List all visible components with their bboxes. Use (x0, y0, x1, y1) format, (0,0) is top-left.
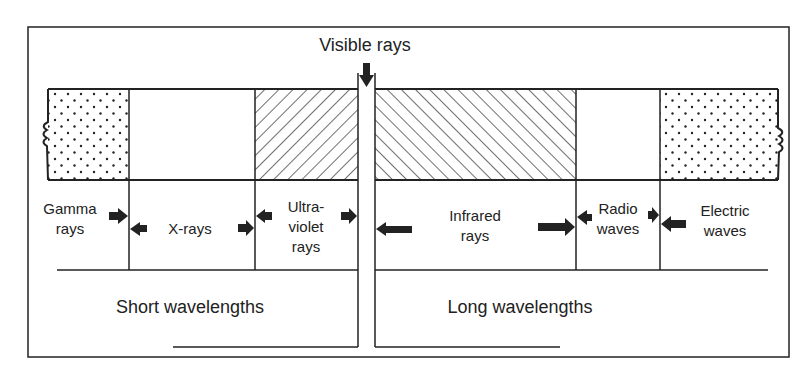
ultraviolet-band (255, 89, 358, 180)
long-wavelengths-label: Long wavelengths (430, 297, 610, 317)
electric-waves-label: Electric waves (680, 201, 770, 241)
arrow-right-icon (538, 218, 575, 236)
radio-waves-label: Radio waves (588, 199, 648, 239)
visible-rays-label: Visible rays (300, 35, 430, 55)
arrow-down-icon (359, 63, 374, 87)
electric-band (660, 89, 778, 180)
infrared-rays-label: Infrared rays (430, 206, 520, 246)
arrow-left-icon (130, 222, 147, 236)
infrared-band (375, 89, 576, 180)
short-wavelengths-label: Short wavelengths (90, 297, 290, 317)
arrow-right-icon (648, 207, 659, 223)
arrow-left-icon (376, 222, 412, 236)
arrow-right-icon (109, 208, 128, 224)
break-left-icon (44, 89, 49, 180)
gamma-rays-label: Gamma rays (30, 199, 110, 239)
break-right-icon (778, 89, 783, 180)
gamma-band (48, 89, 129, 180)
arrow-right-icon (238, 220, 254, 236)
spectrum-diagram (0, 0, 809, 373)
ultraviolet-rays-label: Ultra- violet rays (268, 197, 344, 257)
x-rays-label: X-rays (150, 219, 230, 239)
